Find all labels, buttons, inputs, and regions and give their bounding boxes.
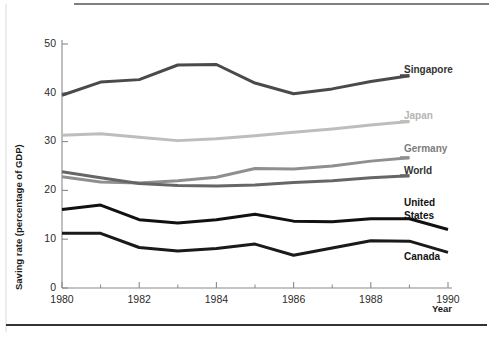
- chart-figure: 01020304050 198019821984198619881990 Sin…: [0, 0, 493, 338]
- x-axis-ticks: 198019821984198619881990: [50, 282, 460, 305]
- series-line-japan: [62, 122, 409, 141]
- y-tick-label: 50: [44, 37, 56, 49]
- series-label-united-states: United: [404, 197, 435, 208]
- y-axis-title: Saving rate (percentage of GDP): [13, 144, 24, 290]
- series-label-germany: Germany: [404, 143, 448, 154]
- x-tick-label: 1980: [50, 293, 74, 305]
- x-axis-title: Year: [432, 303, 452, 314]
- saving-rate-line-chart: 01020304050 198019821984198619881990 Sin…: [0, 0, 493, 338]
- series-line-united-states: [62, 205, 448, 229]
- y-tick-label: 20: [44, 183, 56, 195]
- y-axis-ticks: 01020304050: [44, 37, 68, 293]
- x-tick-label: 1988: [359, 293, 383, 305]
- x-tick-label: 1984: [205, 293, 229, 305]
- series-label-singapore: Singapore: [404, 64, 453, 75]
- y-tick-label: 0: [50, 281, 56, 293]
- series-label-canada: Canada: [404, 251, 441, 262]
- series-line-canada: [62, 233, 448, 255]
- y-tick-label: 10: [44, 232, 56, 244]
- series-label-world: World: [404, 165, 432, 176]
- y-tick-label: 30: [44, 134, 56, 146]
- y-tick-label: 40: [44, 86, 56, 98]
- series-labels-group: SingaporeJapanGermanyWorldUnitedStatesCa…: [404, 64, 453, 262]
- series-lines-group: [62, 64, 448, 255]
- x-tick-label: 1982: [128, 293, 152, 305]
- x-tick-label: 1986: [282, 293, 306, 305]
- series-line-singapore: [62, 64, 409, 95]
- series-label-united-states-line2: States: [404, 210, 434, 221]
- series-label-japan: Japan: [404, 110, 433, 121]
